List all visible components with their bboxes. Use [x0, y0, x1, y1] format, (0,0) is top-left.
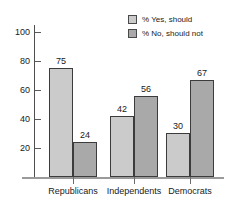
- x-axis-label-democrats: Democrats: [161, 186, 219, 196]
- x-axis-label-republicans: Republicans: [41, 186, 105, 196]
- bar-democrats-yes[interactable]: [166, 133, 190, 177]
- bar-value-republicans-yes: 75: [48, 57, 74, 66]
- x-axis-line: [22, 177, 224, 179]
- bar-value-independents-no: 56: [133, 85, 159, 94]
- bar-value-independents-yes: 42: [109, 105, 135, 114]
- bar-value-republicans-no: 24: [72, 131, 98, 140]
- bar-democrats-no[interactable]: [190, 80, 214, 177]
- bar-independents-yes[interactable]: [110, 116, 134, 177]
- bar-chart: % Yes, should % No, should not 100 80 60…: [0, 0, 227, 203]
- x-axis-label-independents: Independents: [101, 186, 167, 196]
- bar-independents-no[interactable]: [134, 96, 158, 177]
- bar-republicans-yes[interactable]: [49, 68, 73, 177]
- x-tick-democrats: [190, 177, 191, 184]
- bar-republicans-no[interactable]: [73, 142, 97, 177]
- bar-value-democrats-yes: 30: [165, 122, 191, 131]
- x-tick-republicans: [73, 177, 74, 184]
- x-tick-independents: [134, 177, 135, 184]
- bar-value-democrats-no: 67: [189, 69, 215, 78]
- plot-area: 75 24 42 56 30 67: [0, 0, 227, 177]
